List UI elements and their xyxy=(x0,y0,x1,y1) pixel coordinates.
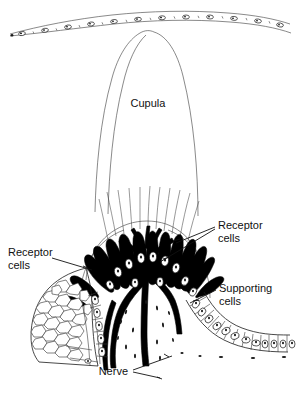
receptor-cells-right-label-line2: cells xyxy=(218,232,241,244)
figure-root: Cupula xyxy=(0,0,296,397)
crista-ampullaris-diagram: Cupula xyxy=(0,0,296,397)
receptor-cells-left-label-line1: Receptor xyxy=(8,246,53,258)
supporting-cells-label-line2: cells xyxy=(219,295,242,307)
cupula-label: Cupula xyxy=(131,97,167,109)
receptor-cells-left-label-line2: cells xyxy=(8,259,31,271)
nerve-label: Nerve xyxy=(99,365,128,377)
receptor-cells-right-label-line1: Receptor xyxy=(218,219,263,231)
supporting-cells-label-line1: Supporting xyxy=(219,282,272,294)
